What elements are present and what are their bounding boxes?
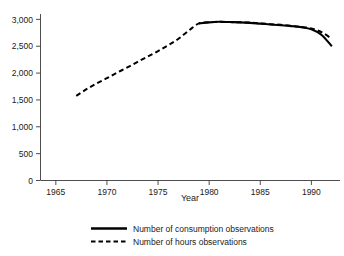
- x-tick-label: 1975: [149, 187, 168, 197]
- y-tick-label: 0: [28, 176, 33, 186]
- y-tick-label: 3,000: [12, 15, 34, 25]
- x-axis: 196519701975198019851990 Year: [41, 181, 341, 204]
- x-tick-label: 1980: [200, 187, 219, 197]
- y-axis: 05001,0001,5002,0002,5003,000: [12, 14, 41, 186]
- series-line-hours: [76, 22, 332, 96]
- y-tick-label: 2,500: [12, 41, 34, 51]
- y-tick-label: 500: [19, 149, 33, 159]
- x-tick-label: 1985: [251, 187, 270, 197]
- y-axis-ticks: [36, 19, 41, 180]
- x-axis-ticks: [56, 181, 312, 186]
- x-tick-label: 1965: [46, 187, 65, 197]
- y-tick-label: 1,000: [12, 122, 34, 132]
- x-tick-label: 1990: [302, 187, 321, 197]
- line-chart: 05001,0001,5002,0002,5003,000 1965197019…: [0, 0, 344, 256]
- series-line-consumption: [199, 22, 332, 46]
- x-axis-title: Year: [181, 193, 199, 203]
- legend: Number of consumption observations Numbe…: [91, 224, 274, 247]
- legend-label-consumption: Number of consumption observations: [133, 224, 274, 234]
- chart-container: 05001,0001,5002,0002,5003,000 1965197019…: [0, 0, 344, 256]
- legend-label-hours: Number of hours observations: [133, 237, 247, 247]
- y-axis-tick-labels: 05001,0001,5002,0002,5003,000: [12, 15, 34, 186]
- y-tick-label: 1,500: [12, 95, 34, 105]
- y-tick-label: 2,000: [12, 68, 34, 78]
- series-group: [76, 22, 332, 96]
- x-tick-label: 1970: [97, 187, 116, 197]
